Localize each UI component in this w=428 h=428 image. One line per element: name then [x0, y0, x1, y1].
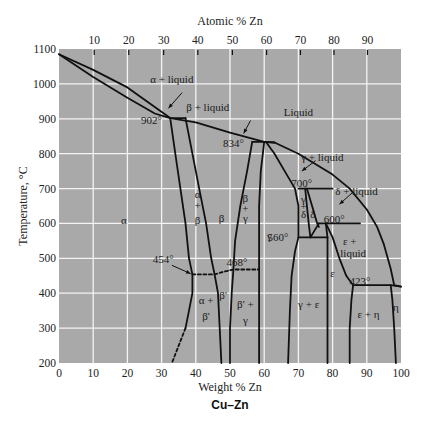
x-axis-title: Weight % Zn: [198, 380, 262, 394]
x-tick-label: 0: [56, 367, 62, 379]
phase-region-label: γ + ε: [297, 298, 320, 310]
x-tick-label: 30: [156, 367, 168, 379]
atomic-tick-label: 60: [261, 34, 273, 46]
phase-region-label: β': [202, 310, 210, 322]
invariant-temp-label: 600°: [324, 213, 345, 225]
y-tick-label: 400: [39, 287, 57, 299]
invariant-temp-label: 700°: [291, 177, 312, 189]
phase-region-label: γ: [242, 212, 248, 224]
x-tick-label: 50: [224, 367, 236, 379]
atomic-tick-label: 90: [362, 34, 374, 46]
cu-zn-phase-diagram: α + liquidβ + liquidLiquidγ + liquidδ + …: [0, 0, 428, 428]
atomic-tick-label: 30: [158, 34, 170, 46]
phase-region-label: liquid: [340, 247, 366, 259]
phase-region-label: β': [219, 289, 227, 301]
invariant-temp-label: 902°: [141, 114, 162, 126]
invariant-temp-label: 454°: [153, 253, 174, 265]
phase-region-label: α + liquid: [150, 73, 194, 85]
chart-caption: Cu–Zn: [211, 398, 248, 412]
y-tick-label: 900: [39, 113, 57, 125]
y-tick-label: 600: [39, 217, 57, 229]
y-tick-label: 300: [39, 322, 57, 334]
atomic-tick-label: 50: [227, 34, 239, 46]
y-axis-title: Temperature, °C: [16, 166, 30, 245]
phase-region-label: α +: [199, 294, 214, 306]
phase-region-label: δ + liquid: [335, 185, 378, 197]
atomic-tick-label: 40: [192, 34, 204, 46]
atomic-tick-label: 10: [88, 34, 100, 46]
phase-region-label: β: [219, 212, 225, 224]
atomic-tick-label: 70: [295, 34, 307, 46]
invariant-temp-label: 423°: [350, 275, 371, 287]
phase-region-label: ε +: [343, 235, 357, 247]
y-tick-label: 700: [39, 183, 57, 195]
y-tick-label: 200: [39, 357, 57, 369]
atomic-tick-label: 80: [328, 34, 340, 46]
phase-region-label: δ: [310, 208, 315, 220]
invariant-temp-label: 834°: [223, 137, 244, 149]
atomic-tick-label: 20: [123, 34, 135, 46]
phase-region-label: δ: [301, 208, 306, 220]
x-tick-label: 80: [327, 367, 339, 379]
y-tick-label: 1100: [33, 43, 56, 55]
y-axis-ticks: 20030040050060070080090010001100: [33, 43, 56, 369]
invariant-temp-label: 560°: [267, 231, 288, 243]
phase-region-label: γ + liquid: [300, 151, 344, 163]
x-tick-label: 100: [392, 367, 410, 379]
phase-region-label: β: [195, 214, 201, 226]
x2-axis-title: Atomic % Zn: [197, 14, 262, 28]
x-axis-ticks: 0102030405060708090100: [56, 367, 410, 379]
phase-region-label: +: [194, 199, 200, 211]
phase-boundary-gamma-solidus: [264, 142, 274, 143]
x-tick-label: 90: [361, 367, 373, 379]
phase-region-label: Liquid: [284, 106, 314, 118]
phase-region-label: β' +: [237, 298, 254, 310]
y-tick-label: 1000: [33, 78, 56, 90]
phase-region-label: α: [121, 214, 127, 226]
x-tick-label: 70: [293, 367, 305, 379]
phase-region-label: η: [393, 301, 399, 313]
x-tick-label: 60: [258, 367, 270, 379]
y-tick-label: 500: [39, 252, 57, 264]
x-tick-label: 20: [122, 367, 134, 379]
invariant-temp-label: 468°: [226, 256, 247, 268]
phase-region-label: γ: [242, 314, 248, 326]
y-tick-label: 800: [39, 148, 57, 160]
phase-region-label: β + liquid: [186, 101, 229, 113]
x-tick-label: 10: [87, 367, 99, 379]
phase-region-label: ε + η: [357, 308, 379, 320]
x-tick-label: 40: [190, 367, 202, 379]
phase-region-label: ε: [330, 267, 335, 279]
